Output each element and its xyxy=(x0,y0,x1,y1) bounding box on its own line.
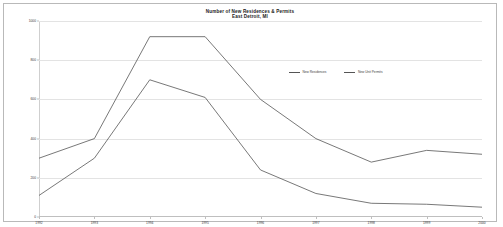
x-tick-label: 1997 xyxy=(312,221,319,225)
y-tick-label: 0 xyxy=(34,215,36,219)
x-tick-mark xyxy=(205,217,206,219)
chart-subtitle: East Detroit, MI xyxy=(4,14,496,19)
legend-label: New Unit Permits xyxy=(358,70,383,74)
legend-label: New Residences xyxy=(303,70,327,74)
x-tick-label: 2000 xyxy=(478,221,485,225)
legend-swatch xyxy=(289,72,300,73)
x-tick-label: 1996 xyxy=(257,221,264,225)
x-tick-mark xyxy=(482,217,483,219)
series-lines xyxy=(39,21,482,217)
x-tick-mark xyxy=(371,217,372,219)
x-tick-label: 1993 xyxy=(91,221,98,225)
y-tick-label: 400 xyxy=(30,137,36,141)
x-tick-label: 1994 xyxy=(146,221,153,225)
y-tick-label: 600 xyxy=(30,97,36,101)
x-tick-mark xyxy=(316,217,317,219)
x-tick-label: 1995 xyxy=(201,221,208,225)
y-tick-label: 800 xyxy=(30,58,36,62)
series-line xyxy=(39,37,482,162)
x-tick-label: 1998 xyxy=(368,221,375,225)
x-tick-label: 1992 xyxy=(35,221,42,225)
y-tick-label: 200 xyxy=(30,176,36,180)
x-tick-mark xyxy=(39,217,40,219)
y-tick-label: 1000 xyxy=(29,19,36,23)
legend-swatch xyxy=(344,72,355,73)
x-tick-mark xyxy=(261,217,262,219)
x-tick-mark xyxy=(427,217,428,219)
chart-legend: New ResidencesNew Unit Permits xyxy=(289,70,383,74)
x-tick-label: 1999 xyxy=(423,221,430,225)
legend-item[interactable]: New Unit Permits xyxy=(344,70,382,74)
x-tick-mark xyxy=(94,217,95,219)
plot-area: 02004006008001000 1992199319941995199619… xyxy=(39,21,482,217)
chart-title-block: Number of New Residences & Permits East … xyxy=(4,9,496,20)
x-tick-mark xyxy=(150,217,151,219)
legend-item[interactable]: New Residences xyxy=(289,70,326,74)
chart-frame: Number of New Residences & Permits East … xyxy=(3,3,497,222)
